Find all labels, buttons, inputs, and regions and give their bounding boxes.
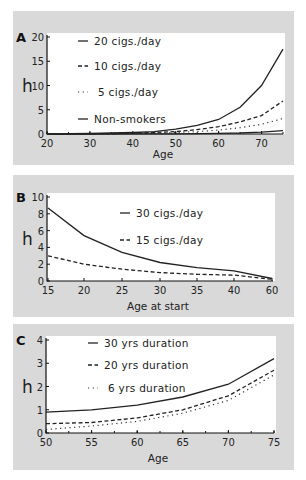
y-tick-label: 5 xyxy=(38,104,44,117)
legend-entry: 6 yrs duration xyxy=(108,382,186,394)
y-tick-label: 20 xyxy=(31,31,44,44)
x-tick-label: 75 xyxy=(268,436,281,449)
legend-entry: 20 cigs./day xyxy=(94,35,161,47)
y-tick-label: 3 xyxy=(37,357,43,370)
panel-label: C xyxy=(16,333,26,348)
x-tick-label: 55 xyxy=(85,436,98,449)
legend-entry: 5 cigs./day xyxy=(98,86,158,98)
legend-entry: 30 yrs duration xyxy=(104,337,189,349)
y-tick-label: 10 xyxy=(31,80,44,93)
x-tick-label: 35 xyxy=(191,284,204,297)
x-axis-label: Age xyxy=(148,452,168,464)
y-axis-label: h xyxy=(22,76,33,96)
x-axis-label: Age xyxy=(153,148,173,160)
y-tick-label: 10 xyxy=(31,191,44,204)
x-tick-label: 40 xyxy=(228,284,241,297)
legend-entry: Non-smokers xyxy=(94,113,166,125)
panel-a: 05101520203040506070AhAge20 cigs./day10 … xyxy=(13,11,294,165)
y-tick-label: 1 xyxy=(37,404,43,417)
x-tick-label: 60 xyxy=(212,137,225,150)
x-tick-label: 60 xyxy=(131,436,144,449)
x-tick-label: 20 xyxy=(41,137,54,150)
x-tick-label: 30 xyxy=(154,284,167,297)
y-tick-label: 15 xyxy=(31,55,44,68)
legend-entry: 30 cigs./day xyxy=(136,207,203,219)
x-tick-label: 70 xyxy=(222,436,235,449)
y-tick-label: 4 xyxy=(38,241,44,254)
x-tick-label: 70 xyxy=(255,137,268,150)
y-axis-label: h xyxy=(22,377,33,397)
x-tick-label: 30 xyxy=(84,137,97,150)
panel-label: B xyxy=(16,190,26,205)
panel-c: 01234505560657075ChAge30 yrs duration20 … xyxy=(13,324,294,470)
x-tick-label: 15 xyxy=(42,284,55,297)
x-tick-label: 65 xyxy=(177,436,190,449)
y-axis-label: h xyxy=(22,229,33,249)
y-tick-label: 2 xyxy=(37,381,43,394)
y-tick-label: 4 xyxy=(37,334,43,347)
x-axis-label: Age at start xyxy=(127,300,189,312)
x-tick-label: 25 xyxy=(116,284,129,297)
panel-b: 024681015202530354060BhAge at start30 ci… xyxy=(13,175,294,317)
figure: 05101520203040506070AhAge20 cigs./day10 … xyxy=(0,0,306,480)
panel-label: A xyxy=(16,30,26,45)
legend-entry: 10 cigs./day xyxy=(94,60,161,72)
legend-entry: 20 yrs duration xyxy=(104,359,189,371)
x-tick-label: 50 xyxy=(40,436,53,449)
legend-entry: 15 cigs./day xyxy=(136,234,203,246)
x-tick-label: 20 xyxy=(78,284,91,297)
y-tick-label: 2 xyxy=(38,258,44,271)
y-tick-label: 8 xyxy=(38,208,44,221)
x-tick-label: 40 xyxy=(127,137,140,150)
x-tick-label: 60 xyxy=(266,284,279,297)
y-tick-label: 6 xyxy=(38,225,44,238)
